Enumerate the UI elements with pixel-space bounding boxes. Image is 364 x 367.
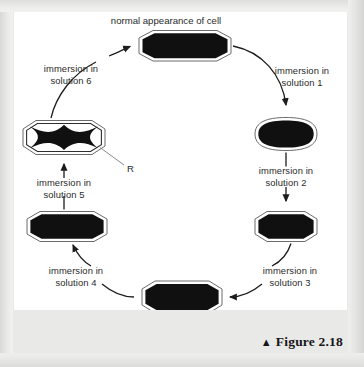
page-edge-left — [0, 0, 13, 367]
label-solution-1-line2: solution 1 — [281, 77, 322, 88]
page-edge-right — [348, 0, 364, 367]
label-solution-5-line2: solution 5 — [43, 189, 84, 200]
label-solution-4-line1: immersion in — [49, 265, 103, 276]
arrow-solution-3 — [230, 284, 262, 297]
cell-left-upper-crenated — [23, 121, 105, 155]
pointer-label-r: R — [127, 163, 134, 174]
diagram-canvas: normal appearance of cell — [14, 12, 347, 310]
page-title: normal appearance of cell — [111, 15, 221, 26]
figure-container: normal appearance of cell — [0, 0, 364, 367]
label-solution-3-line2: solution 3 — [269, 277, 310, 288]
label-solution-6-line1: immersion in — [44, 63, 98, 74]
cell-right-upper — [255, 118, 317, 151]
caption-text: Figure 2.18 — [276, 334, 343, 349]
label-solution-1-line1: immersion in — [275, 65, 329, 76]
cell-normal-top — [139, 31, 231, 62]
page-edge-bottom — [0, 353, 364, 367]
arrow-solution-6 — [109, 47, 130, 57]
caption-triangle-icon: ▲ — [261, 337, 272, 348]
arrow-solution-4-stem — [102, 284, 134, 297]
pointer-leader-line — [100, 148, 124, 166]
label-solution-6-line2: solution 6 — [50, 75, 91, 86]
cell-left-lower — [27, 212, 107, 242]
label-solution-4-line2: solution 4 — [55, 277, 96, 288]
arrow-solution-4 — [73, 245, 91, 266]
label-solution-5-line1: immersion in — [37, 177, 91, 188]
arrow-solution-3-stem — [272, 244, 291, 267]
label-solution-2-line1: immersion in — [259, 165, 313, 176]
label-solution-2-line2: solution 2 — [265, 177, 306, 188]
figure-caption: ▲Figure 2.18 — [261, 334, 343, 350]
cell-right-lower — [255, 212, 317, 242]
cell-cytoplasm — [258, 120, 313, 147]
cell-cytoplasm — [258, 214, 313, 238]
cell-bottom-center — [142, 281, 222, 310]
cell-cytoplasm — [143, 33, 228, 58]
cell-cytoplasm — [145, 284, 218, 310]
page-edge-top — [0, 0, 364, 12]
cell-cycle-diagram: normal appearance of cell — [14, 12, 347, 310]
label-solution-3-line1: immersion in — [263, 265, 317, 276]
cell-cytoplasm — [30, 214, 103, 238]
